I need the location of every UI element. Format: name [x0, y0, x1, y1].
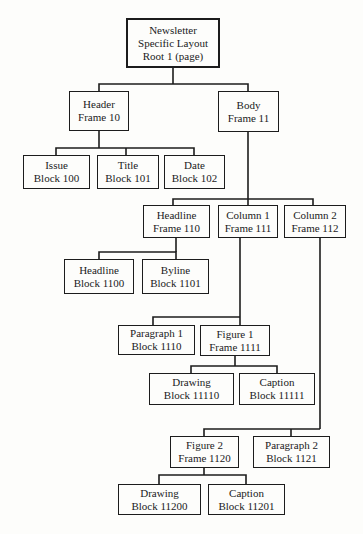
node-label-line: Paragraph 2	[265, 439, 318, 452]
node-paragraph-1: Paragraph 1 Block 1110	[118, 325, 195, 355]
node-label-line: Caption	[260, 376, 295, 389]
node-issue: Issue Block 100	[23, 155, 90, 189]
node-label-line: Paragraph 1	[130, 327, 183, 340]
node-root: Newsletter Specific Layout Root 1 (page)	[126, 18, 220, 68]
node-label-line: Block 100	[34, 172, 80, 185]
node-label-line: Block 11110	[164, 389, 219, 402]
node-date: Date Block 102	[164, 155, 225, 189]
node-paragraph-2: Paragraph 2 Block 1121	[253, 436, 330, 468]
node-drawing-11200: Drawing Block 11200	[118, 484, 201, 515]
node-caption-11111: Caption Block 11111	[239, 373, 315, 405]
node-label-line: Newsletter	[149, 24, 197, 37]
node-label-line: Headline	[157, 209, 197, 222]
node-label-line: Block 1121	[266, 452, 317, 465]
node-label-line: Frame 11	[228, 112, 269, 125]
node-label-line: Block 1110	[131, 340, 181, 353]
node-label-line: Column 2	[293, 209, 337, 222]
node-label-line: Block 11111	[250, 389, 305, 402]
node-header: Header Frame 10	[69, 91, 129, 131]
node-label-line: Block 1101	[150, 277, 201, 290]
connector-root-children	[99, 84, 248, 91]
node-caption-11201: Caption Block 11201	[208, 484, 285, 515]
connector-header-children	[56, 148, 194, 155]
node-label-line: Root 1 (page)	[143, 50, 203, 63]
connector-headline-children	[99, 252, 176, 259]
connector-figure1-children	[191, 366, 277, 373]
node-figure-1: Figure 1 Frame 1111	[200, 325, 270, 356]
node-label-line: Block 101	[105, 172, 151, 185]
newsletter-layout-tree-diagram: Newsletter Specific Layout Root 1 (page)…	[0, 0, 363, 534]
node-title: Title Block 101	[97, 155, 159, 189]
node-label-line: Body	[237, 99, 261, 112]
node-label-line: Header	[83, 98, 115, 111]
node-label-line: Block 11200	[131, 500, 187, 513]
node-label-line: Block 11201	[218, 500, 274, 513]
node-label-line: Headline	[79, 264, 119, 277]
node-label-line: Column 1	[226, 209, 270, 222]
node-label-line: Title	[118, 159, 138, 172]
node-byline-block: Byline Block 1101	[142, 259, 209, 294]
node-label-line: Caption	[229, 487, 264, 500]
node-headline-frame: Headline Frame 110	[143, 205, 210, 238]
node-label-line: Drawing	[172, 376, 211, 389]
node-label-line: Block 102	[172, 172, 218, 185]
node-body: Body Frame 11	[218, 91, 279, 132]
node-label-line: Issue	[45, 159, 68, 172]
node-headline-block: Headline Block 1100	[64, 259, 134, 294]
node-label-line: Frame 10	[78, 111, 120, 124]
connector-column2-children	[204, 429, 320, 436]
node-label-line: Block 1100	[74, 277, 125, 290]
connector-figure2-children	[159, 475, 246, 484]
node-label-line: Drawing	[140, 487, 179, 500]
node-label-line: Figure 1	[217, 328, 254, 341]
node-label-line: Frame 111	[225, 222, 272, 235]
node-label-line: Specific Layout	[138, 37, 208, 50]
node-label-line: Frame 1111	[209, 341, 261, 354]
node-label-line: Frame 1120	[178, 452, 230, 465]
node-column-2: Column 2 Frame 112	[284, 205, 346, 238]
connector-column1-children	[153, 317, 240, 325]
node-label-line: Frame 110	[153, 222, 200, 235]
node-label-line: Byline	[161, 264, 190, 277]
node-figure-2: Figure 2 Frame 1120	[170, 436, 239, 468]
node-column-1: Column 1 Frame 111	[218, 205, 278, 238]
node-label-line: Figure 2	[186, 439, 223, 452]
node-label-line: Frame 112	[292, 222, 339, 235]
node-label-line: Date	[184, 159, 205, 172]
node-drawing-11110: Drawing Block 11110	[149, 373, 234, 405]
